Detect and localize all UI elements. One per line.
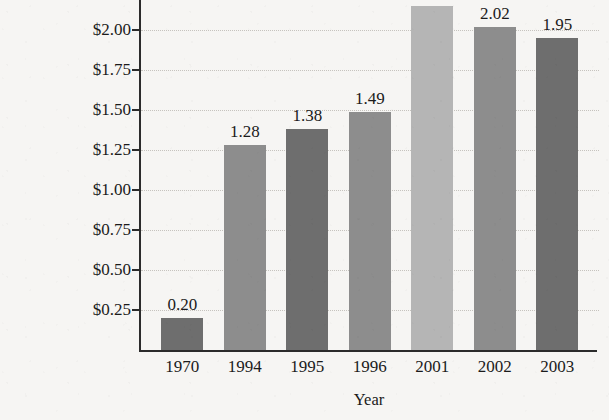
x-tick-label-1996: 1996 [337,358,403,375]
bar-2001 [411,6,453,350]
y-tick-label: $2.00 [51,21,131,38]
bar-2002 [474,27,516,350]
y-axis-line [139,0,141,352]
y-tick-mark [132,29,140,31]
y-tick-label: $1.25 [51,141,131,158]
bar-value-label-2003: 1.95 [522,16,592,33]
y-tick-label: $1.50 [51,101,131,118]
y-tick-label: $1.75 [51,61,131,78]
x-tick-label-1970: 1970 [149,358,215,375]
x-axis-title: Year [139,392,599,409]
x-tick-label-1994: 1994 [212,358,278,375]
y-tick-mark [132,109,140,111]
bar-1996 [349,112,391,350]
y-tick-label: $1.00 [51,181,131,198]
bar-value-label-1996: 1.49 [335,90,405,107]
y-tick-mark [132,229,140,231]
y-tick-mark [132,149,140,151]
y-tick-label: $0.75 [51,221,131,238]
x-tick-label-1995: 1995 [274,358,340,375]
y-tick-mark [132,269,140,271]
x-tick-label-2001: 2001 [399,358,465,375]
bar-value-label-1970: 0.20 [147,296,217,313]
x-axis-line [139,350,597,352]
y-tick-label: $0.50 [51,261,131,278]
bar-1970 [161,318,203,350]
y-tick-mark [132,189,140,191]
y-tick-mark [132,69,140,71]
bar-1994 [224,145,266,350]
bar-value-label-2001: 2.15 [397,0,467,1]
plot-area: $2.00$1.75$1.50$1.25$1.00$0.75$0.50$0.25… [139,0,599,352]
bar-value-label-1994: 1.28 [210,123,280,140]
x-tick-label-2002: 2002 [462,358,528,375]
bar-value-label-1995: 1.38 [272,107,342,124]
bar-value-label-2002: 2.02 [460,5,530,22]
bar-chart-figure: Total Federal Taxes Collected (trillions… [0,0,609,420]
y-tick-label: $0.25 [51,301,131,318]
y-tick-mark [132,309,140,311]
x-tick-label-2003: 2003 [524,358,590,375]
gridline [141,70,599,72]
y-tick-label-layer: $2.00$1.75$1.50$1.25$1.00$0.75$0.50$0.25 [47,0,131,352]
bar-1995 [286,129,328,350]
bar-2003 [536,38,578,350]
